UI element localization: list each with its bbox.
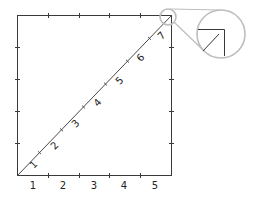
- x-label-1: 1: [30, 180, 36, 191]
- magnifier-small-circle: [160, 9, 176, 25]
- diag-label-4: 4: [91, 96, 103, 108]
- x-label-3: 3: [91, 180, 97, 191]
- x-axis-labels: 1 2 3 4 5: [30, 180, 158, 191]
- x-label-5: 5: [152, 180, 158, 191]
- magnified-diagonal: [203, 34, 219, 51]
- x-label-4: 4: [121, 180, 127, 191]
- diag-label-3: 3: [69, 117, 81, 129]
- diag-label-1: 1: [27, 158, 39, 170]
- magnifier-inset: [160, 9, 245, 58]
- diagonal-paradox-diagram: 1 2 3 4 5 1 2 3 4 5 6 7: [0, 0, 254, 198]
- magnifier-large-circle: [197, 10, 245, 58]
- diag-label-2: 2: [48, 139, 60, 151]
- magnifier-connector-top: [170, 9, 220, 10]
- diag-label-7: 7: [155, 29, 167, 41]
- x-label-2: 2: [60, 180, 66, 191]
- diagonal-line: [18, 16, 172, 176]
- diagonal-labels: 1 2 3 4 5 6 7: [27, 29, 167, 170]
- diag-label-6: 6: [134, 51, 146, 63]
- diag-label-5: 5: [113, 74, 125, 86]
